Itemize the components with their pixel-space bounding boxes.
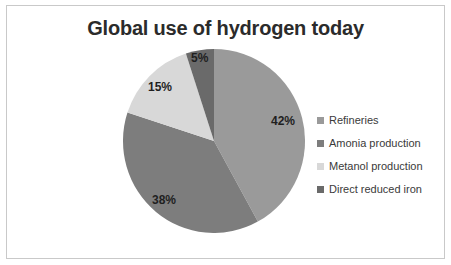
legend-swatch-metanol-production [317, 163, 324, 170]
chart-title: Global use of hydrogen today [0, 17, 451, 40]
legend-item-label: Refineries [329, 115, 379, 126]
legend-swatch-amonia-production [317, 140, 324, 147]
pie-data-label-15pct: 15% [148, 81, 172, 93]
pie-data-label-42pct: 42% [271, 115, 295, 127]
legend-item-metanol-production[interactable]: Metanol production [317, 155, 445, 178]
legend-item-amonia-production[interactable]: Amonia production [317, 132, 445, 155]
pie-data-label-38pct: 38% [152, 194, 176, 206]
pie-plot-area: 42%38%15%5% [123, 49, 305, 233]
pie-chart-figure: Global use of hydrogen today 42%38%15%5%… [0, 0, 451, 265]
chart-legend: RefineriesAmonia productionMetanol produ… [317, 109, 445, 201]
legend-swatch-refineries [317, 117, 324, 124]
pie-svg [123, 49, 305, 233]
legend-item-refineries[interactable]: Refineries [317, 109, 445, 132]
legend-swatch-direct-reduced-iron [317, 186, 324, 193]
legend-item-label: Amonia production [329, 138, 421, 149]
pie-slice-group [123, 49, 305, 233]
legend-item-direct-reduced-iron[interactable]: Direct reduced iron [317, 178, 445, 201]
pie-data-label-5pct: 5% [191, 52, 208, 64]
legend-item-label: Direct reduced iron [329, 184, 422, 195]
legend-item-label: Metanol production [329, 161, 423, 172]
